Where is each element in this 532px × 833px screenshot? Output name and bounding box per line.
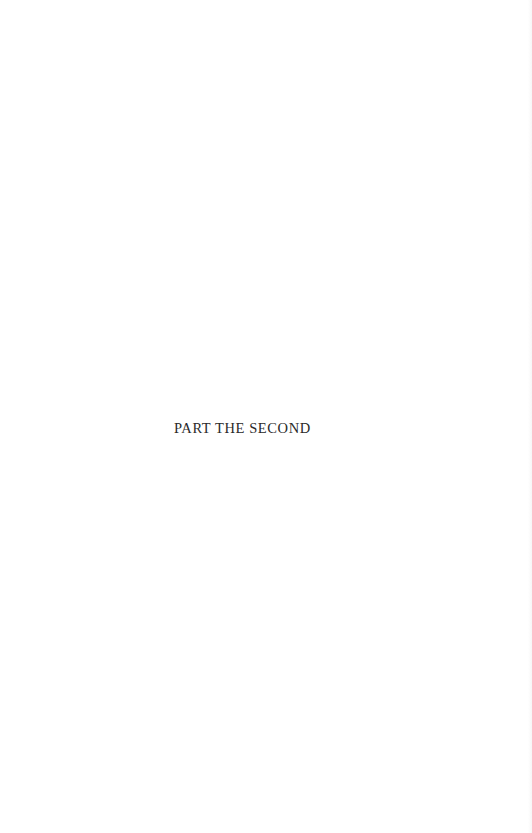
part-title-heading: PART THE SECOND	[174, 419, 358, 437]
page-edge-shadow	[528, 0, 532, 833]
book-page: PART THE SECOND	[0, 0, 532, 833]
